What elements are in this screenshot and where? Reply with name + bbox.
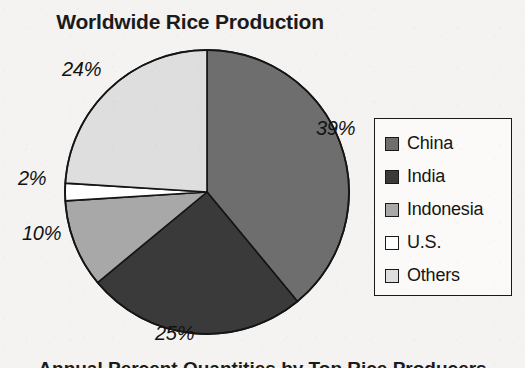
legend-item-india: India <box>385 160 511 193</box>
legend-item-label: Indonesia <box>407 199 483 220</box>
legend-swatch-icon <box>385 269 399 283</box>
legend-item-label: China <box>407 133 453 154</box>
pie-chart-figure: Worldwide Rice Production 39% 25% 10% 2%… <box>0 0 525 368</box>
legend-swatch-icon <box>385 170 399 184</box>
page-title: Worldwide Rice Production <box>0 10 380 34</box>
figure-caption-text: Annual Percent Quantities by Top Rice Pr… <box>0 358 525 368</box>
legend-item-indonesia: Indonesia <box>385 193 511 226</box>
pie-chart-svg <box>62 47 352 337</box>
slice-value-us: 2% <box>18 167 46 190</box>
legend-item-us: U.S. <box>385 226 511 259</box>
legend-swatch-icon <box>385 236 399 250</box>
slice-value-china: 39% <box>316 117 355 140</box>
legend-item-label: India <box>407 166 445 187</box>
legend-swatch-icon <box>385 137 399 151</box>
legend-swatch-icon <box>385 203 399 217</box>
legend-item-label: U.S. <box>407 232 441 253</box>
legend-item-others: Others <box>385 259 511 292</box>
pie-chart <box>62 47 352 337</box>
pie-slices <box>65 50 349 334</box>
legend-item-china: China <box>385 127 511 160</box>
figure-caption: Annual Percent Quantities by Top Rice Pr… <box>0 358 525 368</box>
slice-value-indonesia: 10% <box>22 222 61 245</box>
legend-item-label: Others <box>407 265 460 286</box>
chart-legend: ChinaIndiaIndonesiaU.S.Others <box>374 118 512 296</box>
slice-value-others: 24% <box>62 58 101 81</box>
slice-value-india: 25% <box>155 322 194 345</box>
